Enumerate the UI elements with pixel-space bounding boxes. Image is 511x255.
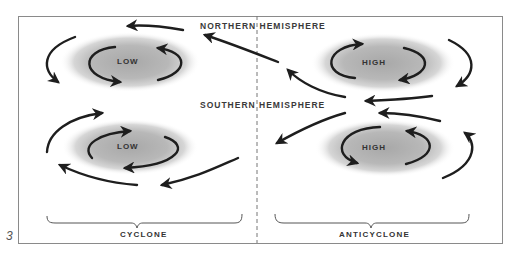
- brace-anticyclone: [275, 214, 469, 228]
- diagram-canvas: [0, 0, 511, 255]
- label-cyclone: CYCLONE: [120, 230, 168, 239]
- label-south-low: LOW: [117, 142, 139, 151]
- label-south-high: HIGH: [362, 143, 386, 152]
- brace-cyclone: [47, 214, 242, 228]
- figure-number: 3: [6, 229, 13, 243]
- arrow-north-high-outer-bottom: [366, 96, 432, 101]
- label-north-low: LOW: [117, 57, 139, 66]
- label-anticyclone: ANTICYCLONE: [339, 230, 410, 239]
- arrow-north-cross-divider: [205, 35, 278, 62]
- label-northern-hemisphere: NORTHERN HEMISPHERE: [200, 21, 326, 31]
- arrow-north-low-outer-top: [128, 26, 183, 30]
- label-north-high: HIGH: [362, 58, 386, 67]
- label-southern-hemisphere: SOUTHERN HEMISPHERE: [200, 100, 325, 110]
- cyclone-anticyclone-diagram: NORTHERN HEMISPHERE SOUTHERN HEMISPHERE …: [0, 0, 511, 255]
